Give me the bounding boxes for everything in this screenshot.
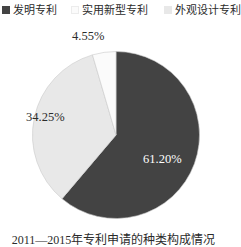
pie-plot-area: [32, 51, 200, 219]
legend-label-utility-model-patent: 实用新型专利: [82, 4, 148, 16]
pie-svg: [32, 51, 200, 219]
legend-swatch-icon-design-patent: [164, 6, 172, 14]
legend-label-design-patent: 外观设计专利: [175, 4, 241, 16]
slice-value-label-utility-model-patent: 4.55%: [72, 29, 104, 43]
legend-swatch-icon-utility-model-patent: [71, 6, 79, 14]
legend-item-invention-patent[interactable]: 发明专利: [2, 4, 57, 16]
slice-value-label-invention-patent: 61.20%: [143, 152, 182, 166]
pie-slice-group: [32, 52, 199, 219]
legend-label-invention-patent: 发明专利: [13, 4, 57, 16]
slice-value-label-design-patent: 34.25%: [26, 110, 65, 124]
legend-item-utility-model-patent[interactable]: 实用新型专利: [71, 4, 148, 16]
chart-caption: 2011—2015年专利申请的种类构成情况: [0, 233, 227, 247]
legend-swatch-icon-invention-patent: [2, 6, 10, 14]
chart-legend: 发明专利 实用新型专利 外观设计专利: [0, 2, 227, 18]
legend-item-design-patent[interactable]: 外观设计专利: [164, 4, 241, 16]
